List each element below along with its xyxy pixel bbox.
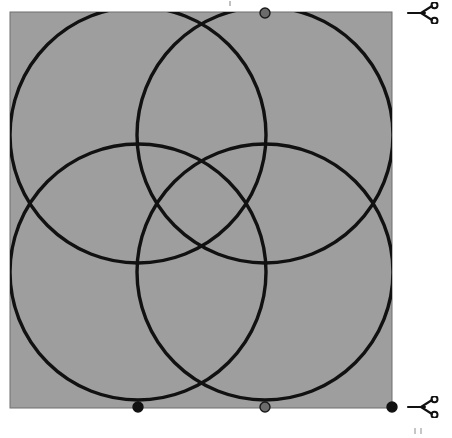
registration-tick-top-center — [229, 1, 231, 6]
marker-top-center[interactable] — [260, 8, 270, 18]
scissors-icon — [406, 2, 440, 24]
scissors-icon — [406, 396, 440, 418]
marker-bottom-left[interactable] — [133, 402, 143, 412]
cut-line-marker-top — [406, 2, 440, 24]
registration-tick-bottom-right-a — [414, 428, 416, 434]
marker-bottom-center[interactable] — [260, 402, 270, 412]
registration-tick-bottom-right-b — [420, 428, 422, 434]
cut-line-marker-bottom — [406, 396, 440, 418]
gray-square-panel — [10, 12, 392, 408]
four-circles-figure — [0, 0, 452, 438]
marker-bottom-right-corner[interactable] — [387, 402, 397, 412]
diagram-canvas — [0, 0, 452, 438]
